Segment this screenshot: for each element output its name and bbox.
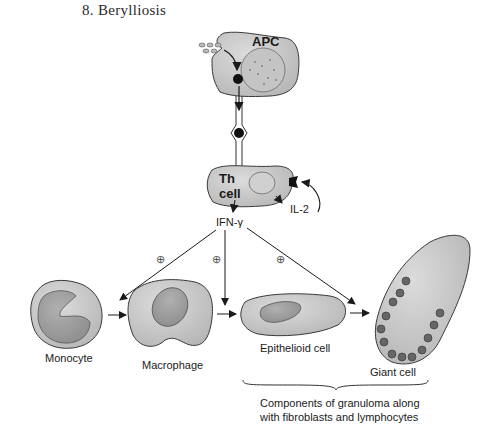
epithelioid-label: Epithelioid cell <box>260 342 330 354</box>
plus-sign-2: ⊕ <box>212 253 221 266</box>
macrophage-cell <box>128 280 212 347</box>
caption-line2: with fibroblasts and lymphocytes <box>260 410 420 424</box>
caption-line1: Components of granuloma along <box>260 396 420 410</box>
plus-sign-1: ⊕ <box>156 253 165 266</box>
th-label-line1: Th <box>219 171 241 186</box>
ifn-gamma-label: IFN-γ <box>216 216 243 228</box>
epithelioid-cell <box>241 294 346 336</box>
antigen-bound-icon <box>234 128 244 138</box>
apc-label: APC <box>252 34 279 49</box>
giant-cell <box>375 235 470 364</box>
macrophage-label: Macrophage <box>142 359 203 371</box>
th-cell-label: Th cell <box>219 171 241 201</box>
plus-sign-3: ⊕ <box>276 253 285 266</box>
grouping-brace <box>243 380 428 390</box>
receptor-stalk <box>231 86 247 168</box>
giant-cell-label: Giant cell <box>370 366 416 378</box>
monocyte-label: Monocyte <box>45 352 93 364</box>
il2-label: IL-2 <box>290 203 309 215</box>
th-label-line2: cell <box>219 186 241 201</box>
monocyte-cell <box>31 280 102 348</box>
il2-receptor-icon <box>289 176 298 188</box>
granuloma-caption: Components of granuloma along with fibro… <box>260 396 420 424</box>
